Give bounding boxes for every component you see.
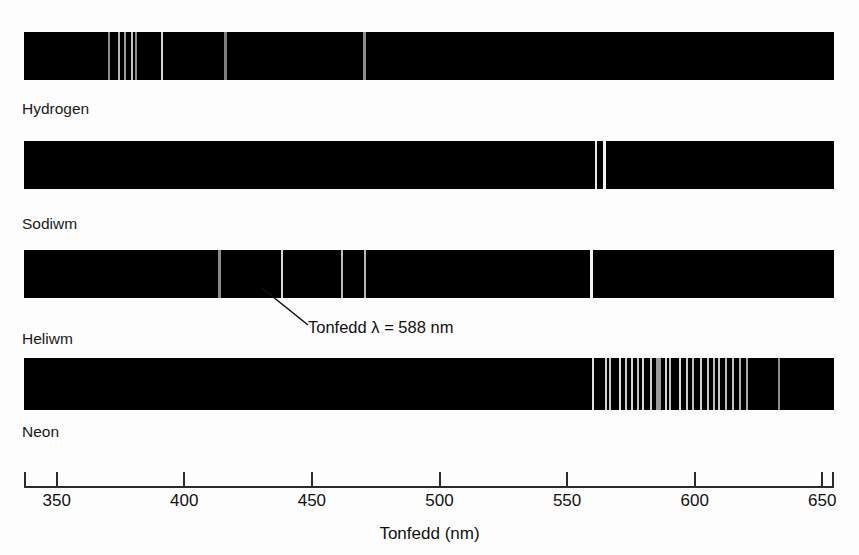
spectral-line bbox=[592, 358, 594, 410]
spectral-line bbox=[605, 358, 607, 410]
spectral-line bbox=[739, 358, 741, 410]
spectrum-label-neon: Neon bbox=[22, 424, 59, 440]
spectral-line bbox=[656, 358, 661, 410]
spectral-line bbox=[218, 250, 221, 298]
spectrum-strip-heliwm bbox=[24, 250, 834, 298]
axis-tick bbox=[56, 472, 58, 487]
axis-tick-label: 650 bbox=[808, 492, 836, 509]
spectral-line bbox=[363, 32, 366, 80]
spectral-line bbox=[707, 358, 709, 410]
axis-tick bbox=[566, 472, 568, 487]
spectral-line bbox=[700, 358, 702, 410]
spectral-line bbox=[692, 358, 694, 410]
spectral-line bbox=[603, 141, 606, 189]
spectrum-label-heliwm: Heliwm bbox=[22, 331, 73, 347]
spectrum-label-hydrogen: Hydrogen bbox=[22, 101, 89, 117]
spectral-line bbox=[609, 358, 611, 410]
spectral-line bbox=[108, 32, 110, 80]
spectrum-strip-hydrogen bbox=[24, 32, 834, 80]
spectral-line bbox=[669, 358, 671, 410]
spectral-line bbox=[341, 250, 343, 298]
spectral-line bbox=[124, 32, 126, 80]
spectral-line bbox=[637, 358, 639, 410]
axis-title: Tonfedd (nm) bbox=[0, 524, 859, 544]
spectrum-strip-neon bbox=[24, 358, 834, 410]
spectral-line bbox=[595, 141, 597, 189]
axis-tick bbox=[311, 472, 313, 487]
spectral-line bbox=[725, 358, 727, 410]
axis-tick-label: 550 bbox=[553, 492, 581, 509]
axis-tick bbox=[821, 472, 823, 487]
axis-tick-label: 600 bbox=[681, 492, 709, 509]
axis-tick bbox=[439, 472, 441, 487]
spectral-line bbox=[118, 32, 120, 80]
spectral-line bbox=[224, 32, 227, 80]
axis-endcap bbox=[832, 472, 834, 487]
axis-tick-label: 450 bbox=[298, 492, 326, 509]
spectral-line bbox=[364, 250, 366, 298]
spectral-line bbox=[679, 358, 681, 410]
spectrum-strip-sodiwm bbox=[24, 141, 834, 189]
spectral-line bbox=[746, 358, 748, 410]
spectral-line bbox=[161, 32, 163, 80]
spectrum-label-sodiwm: Sodiwm bbox=[22, 216, 77, 232]
axis-line bbox=[24, 486, 834, 488]
spectral-line bbox=[718, 358, 720, 410]
spectral-line bbox=[631, 358, 633, 410]
annotation-label: Tonfedd λ = 588 nm bbox=[308, 319, 453, 336]
axis-tick bbox=[183, 472, 185, 487]
spectral-line bbox=[665, 358, 667, 410]
spectral-line bbox=[281, 250, 283, 298]
spectral-line bbox=[642, 358, 644, 410]
wavelength-axis: 350400450500550600650 Tonfedd (nm) bbox=[0, 466, 859, 526]
axis-tick-label: 400 bbox=[170, 492, 198, 509]
spectral-line bbox=[713, 358, 715, 410]
axis-endcap bbox=[24, 472, 26, 487]
spectral-line bbox=[590, 250, 593, 298]
spectral-line bbox=[732, 358, 734, 410]
spectral-line bbox=[650, 358, 652, 410]
spectral-line bbox=[619, 358, 621, 410]
spectral-line bbox=[135, 32, 137, 80]
emission-spectra-figure: HydrogenSodiwmHeliwmNeon Tonfedd λ = 588… bbox=[0, 0, 859, 555]
axis-tick bbox=[694, 472, 696, 487]
axis-tick-label: 350 bbox=[43, 492, 71, 509]
spectral-line bbox=[131, 32, 133, 80]
spectral-line bbox=[625, 358, 627, 410]
axis-tick-label: 500 bbox=[425, 492, 453, 509]
spectral-line bbox=[778, 358, 780, 410]
spectral-line bbox=[686, 358, 688, 410]
